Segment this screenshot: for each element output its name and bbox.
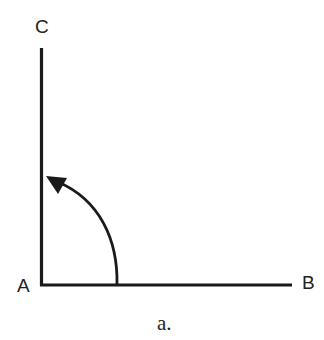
point-label-a: A (17, 276, 30, 295)
angle-arc-arrow (58, 182, 117, 285)
point-label-b: B (302, 273, 315, 292)
right-angle-figure (0, 0, 324, 340)
figure-caption: a. (157, 313, 172, 334)
diagram-canvas: C A B a. (0, 0, 324, 340)
point-label-c: C (35, 17, 49, 36)
